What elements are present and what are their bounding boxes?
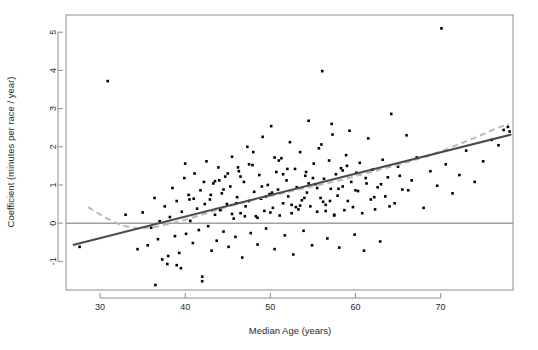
data-point	[357, 190, 360, 193]
data-point	[364, 177, 367, 180]
data-point	[161, 258, 164, 261]
data-point	[331, 133, 334, 136]
data-point	[205, 160, 208, 163]
data-point	[319, 197, 322, 200]
data-point	[272, 207, 275, 210]
data-point	[187, 194, 190, 197]
data-point	[163, 205, 166, 208]
data-point	[169, 216, 172, 219]
data-point	[367, 137, 370, 140]
data-point	[221, 192, 224, 195]
x-axis-ticks: 3040506070	[95, 293, 446, 312]
data-point	[289, 141, 292, 144]
data-point	[193, 172, 196, 175]
y-axis-title: Coefficient (minutes per race / year)	[5, 77, 16, 228]
y-tick-label: 4	[48, 68, 58, 73]
regression-path	[73, 135, 511, 245]
data-point	[157, 238, 160, 241]
data-point	[323, 178, 326, 181]
data-point	[440, 27, 443, 30]
data-point	[401, 188, 404, 191]
data-point	[231, 213, 234, 216]
data-point	[341, 169, 344, 172]
data-point	[312, 177, 315, 180]
y-axis-ticks: -1012345	[48, 30, 63, 266]
data-point	[261, 136, 264, 139]
data-point	[209, 198, 212, 201]
data-point	[153, 197, 156, 200]
data-point	[244, 215, 247, 218]
data-point	[363, 249, 366, 252]
data-point	[376, 186, 379, 189]
data-point	[330, 123, 333, 126]
data-point	[354, 189, 357, 192]
data-point	[215, 239, 218, 242]
x-tick-label: 30	[95, 302, 105, 312]
data-point	[261, 185, 264, 188]
data-point	[393, 202, 396, 205]
data-point	[252, 151, 255, 154]
data-point	[301, 199, 304, 202]
data-point	[136, 248, 139, 251]
data-point	[345, 154, 348, 157]
data-point	[352, 206, 355, 209]
data-point	[227, 246, 230, 249]
data-point	[282, 202, 285, 205]
x-tick-label: 40	[180, 302, 190, 312]
data-point	[258, 174, 261, 177]
data-point	[320, 143, 323, 146]
data-point	[236, 196, 239, 199]
data-point	[312, 162, 315, 165]
data-point	[231, 155, 234, 158]
data-point	[429, 170, 432, 173]
data-point	[241, 256, 244, 259]
data-point	[284, 234, 287, 237]
data-point	[379, 240, 382, 243]
data-point	[497, 144, 500, 147]
data-point	[384, 195, 387, 198]
data-point	[141, 211, 144, 214]
data-point	[106, 80, 109, 83]
data-point	[482, 160, 485, 163]
chart-canvas: -1012345 3040506070 Median Age (years) C…	[0, 0, 538, 350]
data-point	[305, 171, 308, 174]
data-point	[248, 163, 251, 166]
data-point	[226, 172, 229, 175]
data-point	[422, 207, 425, 210]
data-point	[214, 180, 217, 183]
data-point	[188, 198, 191, 201]
data-point	[207, 225, 210, 228]
data-point	[321, 70, 324, 73]
data-point	[178, 252, 181, 255]
data-point	[167, 255, 170, 258]
data-point	[358, 162, 361, 165]
data-point	[243, 181, 246, 184]
data-point	[263, 210, 266, 213]
data-point	[210, 249, 213, 252]
data-point	[316, 210, 319, 213]
data-point	[318, 147, 321, 150]
data-point	[180, 267, 183, 270]
data-point	[353, 233, 356, 236]
data-point	[302, 229, 305, 232]
data-point	[322, 200, 325, 203]
data-point	[370, 198, 373, 201]
data-point	[189, 220, 192, 223]
linear-regression-line	[73, 135, 511, 245]
data-point	[234, 236, 237, 239]
data-point	[239, 212, 242, 215]
data-point	[217, 166, 220, 169]
data-point	[290, 204, 293, 207]
data-point	[218, 179, 221, 182]
data-point	[201, 280, 204, 283]
data-point	[265, 227, 268, 230]
data-point	[192, 242, 195, 245]
data-point	[196, 207, 199, 210]
data-point	[278, 159, 281, 162]
x-tick-label: 70	[436, 302, 446, 312]
data-point	[146, 244, 149, 247]
data-point	[222, 230, 225, 233]
data-point	[175, 264, 178, 267]
x-tick-label: 50	[265, 302, 275, 312]
data-point	[304, 174, 307, 177]
